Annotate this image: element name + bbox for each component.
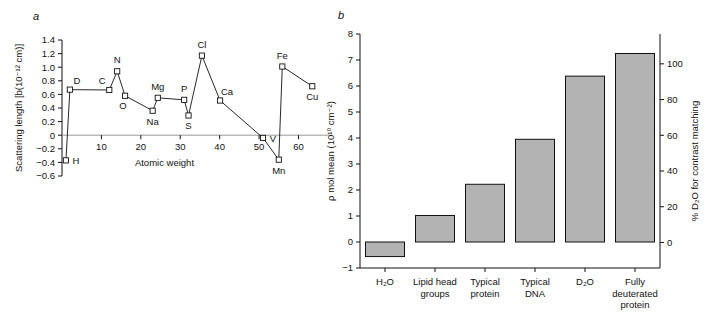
data-point-marker xyxy=(182,97,187,102)
category-label-b: DNA xyxy=(525,288,546,299)
y-tick-label-b-right: 20 xyxy=(667,201,678,212)
bar xyxy=(566,76,605,242)
category-label-b: D₂O xyxy=(576,276,594,287)
y-tick-label-b-left: 3 xyxy=(348,158,353,169)
data-point-label: D xyxy=(73,75,80,86)
y-tick-label-b-left: 1 xyxy=(348,210,353,221)
y-tick-label-a: 0.2 xyxy=(42,116,55,127)
y-tick-label-b-left: 6 xyxy=(348,80,353,91)
panel-a-letter: a xyxy=(33,10,39,22)
y-tick-label-a: −0.6 xyxy=(36,170,55,181)
data-point-label: Na xyxy=(147,116,160,127)
x-tick-label-a: 10 xyxy=(96,141,107,152)
bar xyxy=(466,184,505,242)
y-tick-label-b-right: 60 xyxy=(667,130,678,141)
data-point-label: Cl xyxy=(197,39,206,50)
data-point-marker xyxy=(310,84,315,89)
figure-root: a −0.6−0.4−0.200.20.40.60.81.01.21.41020… xyxy=(0,0,714,318)
x-tick-label-a: 60 xyxy=(293,141,304,152)
data-point-label: Fe xyxy=(277,50,288,61)
data-point-label: V xyxy=(270,133,277,144)
data-point-marker xyxy=(260,135,265,140)
bar xyxy=(416,215,455,242)
category-label-b: H₂O xyxy=(376,276,394,287)
data-point-marker xyxy=(280,64,285,69)
bar xyxy=(616,54,655,243)
category-label-b: Typical xyxy=(470,276,500,287)
y-tick-label-b-left: 2 xyxy=(348,184,353,195)
data-point-label: Ca xyxy=(221,86,234,97)
y-tick-label-a: −0.2 xyxy=(36,143,55,154)
y-tick-label-a: 1.0 xyxy=(42,62,55,73)
data-point-marker xyxy=(155,95,160,100)
y-tick-label-a: −0.4 xyxy=(36,157,55,168)
category-label-b: protein xyxy=(470,288,499,299)
category-label-b: Fully xyxy=(625,276,645,287)
data-point-label: P xyxy=(181,83,187,94)
y-tick-label-b-left: 4 xyxy=(348,132,353,143)
category-label-b: Typical xyxy=(520,276,550,287)
y-tick-label-b-right: 80 xyxy=(667,94,678,105)
panel-b-letter: b xyxy=(338,9,344,21)
data-point-marker xyxy=(217,98,222,103)
panel-b: b −1012345678ρ mol mean (10¹⁰ cm⁻²)02040… xyxy=(330,0,714,318)
data-point-label: H xyxy=(73,155,80,166)
x-axis-title-a: Atomic weight xyxy=(135,157,194,168)
y-tick-label-b-left: 0 xyxy=(348,236,353,247)
panel-b-plot: −1012345678ρ mol mean (10¹⁰ cm⁻²)0204060… xyxy=(330,0,714,318)
data-point-marker xyxy=(150,108,155,113)
panel-a: a −0.6−0.4−0.200.20.40.60.81.01.21.41020… xyxy=(0,0,357,318)
data-point-marker xyxy=(186,113,191,118)
y-tick-label-a: 0 xyxy=(50,130,55,141)
y-tick-label-a: 0.8 xyxy=(42,75,55,86)
category-label-b: groups xyxy=(420,288,449,299)
x-tick-label-a: 30 xyxy=(175,141,186,152)
data-point-marker xyxy=(63,158,68,163)
y-tick-label-a: 1.4 xyxy=(42,34,55,45)
y-tick-label-a: 1.2 xyxy=(42,48,55,59)
data-point-label: C xyxy=(99,75,106,86)
bar xyxy=(516,139,555,242)
category-label-b: protein xyxy=(620,299,649,310)
data-point-label: N xyxy=(114,54,121,65)
data-point-label: Mn xyxy=(272,165,285,176)
data-point-marker xyxy=(115,69,120,74)
panel-a-plot: −0.6−0.4−0.200.20.40.60.81.01.21.4102030… xyxy=(0,0,357,318)
data-point-marker xyxy=(67,87,72,92)
y-axis-title-a: Scattering length [b(10⁻¹² cm)] xyxy=(13,44,24,172)
y-tick-label-b-left: 7 xyxy=(348,54,353,65)
x-tick-label-a: 50 xyxy=(254,141,265,152)
y-tick-label-b-right: 100 xyxy=(667,58,683,69)
data-point-label: Mg xyxy=(151,81,164,92)
y-tick-label-b-right: 40 xyxy=(667,165,678,176)
data-point-marker xyxy=(199,53,204,58)
y-tick-label-b-left: −1 xyxy=(342,262,353,273)
category-label-b: Lipid head xyxy=(413,276,457,287)
data-point-label: O xyxy=(119,100,126,111)
y-tick-label-b-left: 5 xyxy=(348,106,353,117)
y-axis-title-b-left: ρ mol mean (10¹⁰ cm⁻²) xyxy=(325,101,336,201)
data-point-marker xyxy=(122,93,127,98)
y-tick-label-a: 0.6 xyxy=(42,89,55,100)
bar xyxy=(366,242,405,257)
x-tick-label-a: 40 xyxy=(214,141,225,152)
x-tick-label-a: 20 xyxy=(136,141,147,152)
y-tick-label-b-left: 8 xyxy=(348,28,353,39)
data-point-label: Cu xyxy=(306,91,318,102)
data-point-label: S xyxy=(185,120,191,131)
y-tick-label-a: 0.4 xyxy=(42,102,55,113)
y-tick-label-b-right: 0 xyxy=(667,237,672,248)
y-axis-title-b-right: % D₂O for contrast matching xyxy=(689,101,700,221)
data-point-marker xyxy=(107,87,112,92)
data-point-marker xyxy=(276,157,281,162)
category-label-b: deuterated xyxy=(612,288,657,299)
